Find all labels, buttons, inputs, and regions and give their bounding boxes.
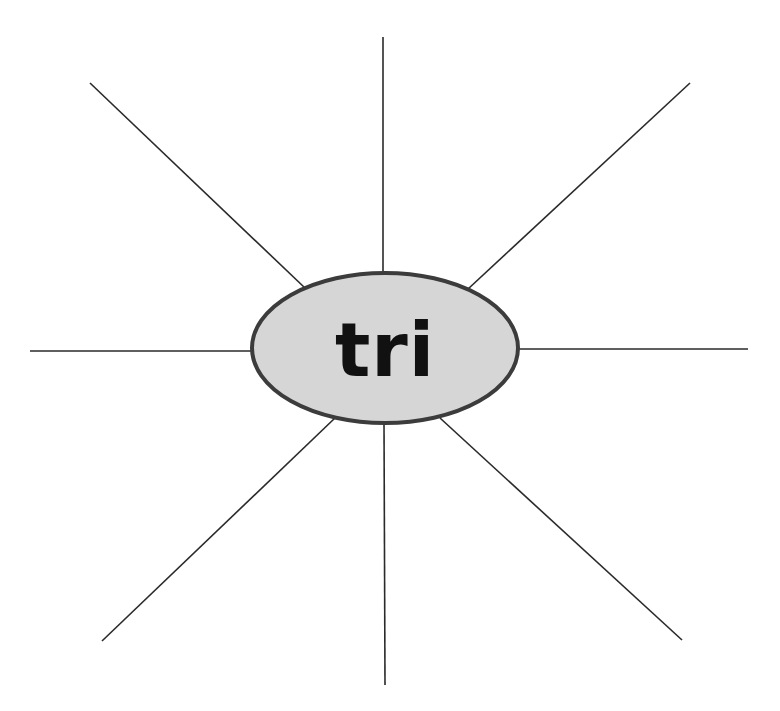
spoke-top-right [468,83,690,289]
spoke-bottom-right [440,418,682,640]
word-web-diagram: tri [0,0,780,711]
spoke-top-left [90,83,305,288]
spoke-bottom-left [102,418,335,641]
center-word-label: tri [335,307,435,393]
spoke-bottom [384,422,385,685]
